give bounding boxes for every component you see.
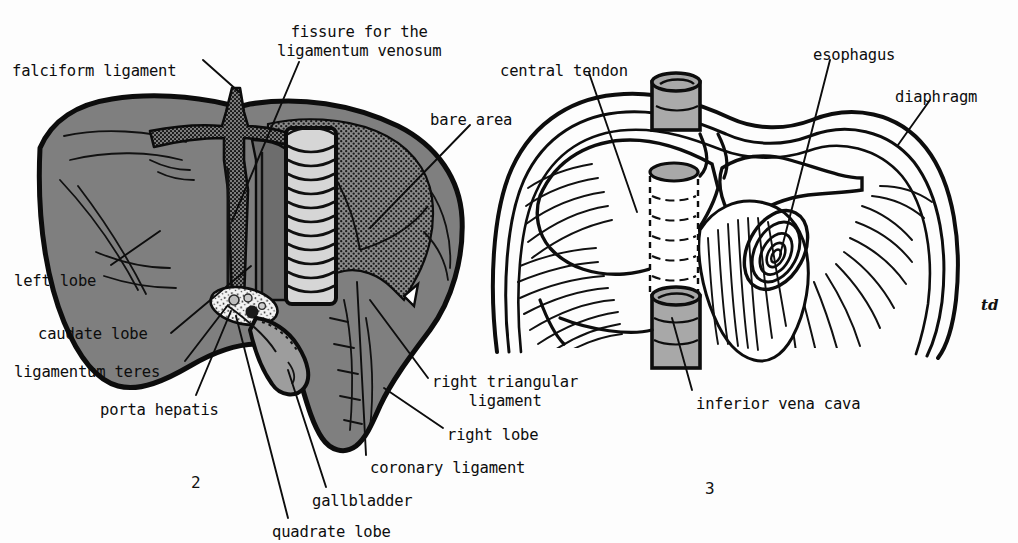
- label-quadrate-lobe: quadrate lobe: [272, 523, 391, 542]
- figure-2-liver: [39, 60, 470, 518]
- inferior-vena-cava-groove: [286, 128, 336, 304]
- label-bare-area: bare area: [430, 111, 512, 130]
- label-falciform-ligament: falciform ligament: [12, 62, 176, 81]
- aortic-hiatus-cylinder: [650, 163, 698, 294]
- label-right-triangular-ligament: right triangular ligament: [432, 373, 578, 411]
- label-gallbladder: gallbladder: [312, 492, 412, 511]
- fissure-ligamentum-venosum-shape: [252, 140, 286, 300]
- leader-falciform-ligament: [203, 60, 239, 92]
- inferior-vena-cava-cylinder: [652, 287, 700, 368]
- label-caudate-lobe: caudate lobe: [38, 325, 148, 344]
- aorta-cylinder: [652, 73, 700, 130]
- label-right-lobe: right lobe: [447, 426, 538, 445]
- label-porta-hepatis: porta hepatis: [100, 401, 219, 420]
- figure-number-2: 2: [191, 473, 201, 492]
- label-ligamentum-teres: ligamentum teres: [14, 363, 160, 382]
- label-esophagus: esophagus: [813, 46, 895, 65]
- artist-signature: td: [981, 296, 998, 314]
- illustration-page: falciform ligament fissure for the ligam…: [0, 0, 1018, 543]
- diaphragm-muscle-fibres-left: [518, 164, 622, 352]
- figure-number-3: 3: [705, 479, 715, 498]
- label-inferior-vena-cava: inferior vena cava: [696, 395, 860, 414]
- label-coronary-ligament: coronary ligament: [370, 459, 525, 478]
- label-fissure-ligamentum-venosum: fissure for the ligamentum venosum: [277, 23, 441, 61]
- label-left-lobe: left lobe: [14, 272, 96, 291]
- label-diaphragm: diaphragm: [895, 88, 977, 107]
- label-central-tendon: central tendon: [500, 62, 628, 81]
- figure-3-diaphragm: [493, 60, 958, 390]
